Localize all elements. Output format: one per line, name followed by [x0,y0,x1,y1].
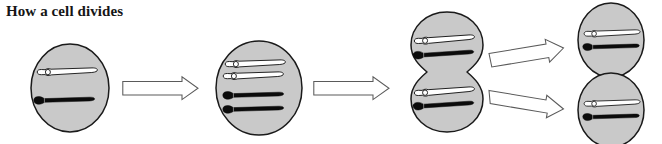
stage-1-parent-cell [31,44,109,132]
stage-2-duplicated-cell [216,41,302,135]
cell-membrane [578,3,644,77]
cell-membrane-pinched [411,12,483,132]
cell-membrane [578,73,644,144]
cell-membrane [216,41,302,135]
stage-4-daughter-cell-top [578,3,644,77]
arrow-stage2-to-stage3 [314,77,389,100]
cell-membrane [31,44,109,132]
stage-4-daughter-cell-bottom [578,73,644,144]
arrow-stage3-to-daughter-bottom [489,91,564,118]
arrow-stage3-to-daughter-top [489,39,564,67]
cell-division-figure: How a cell divides [0,0,662,144]
stage-3-dividing-cell [411,12,483,132]
arrow-stage1-to-stage2 [123,77,198,100]
mitosis-diagram [0,0,662,144]
